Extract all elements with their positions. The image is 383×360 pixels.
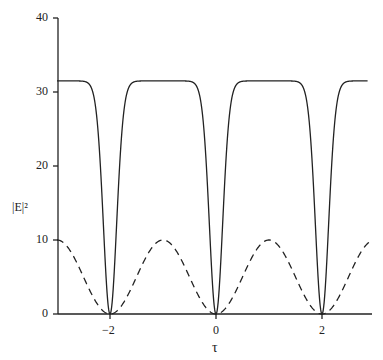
y-tick-label: 0 <box>42 306 48 321</box>
x-tick-label: 2 <box>319 323 325 338</box>
x-axis-label: τ <box>212 340 218 356</box>
y-tick-label: 10 <box>36 232 48 247</box>
y-axis-label: |E|² <box>12 200 28 215</box>
y-tick-label: 30 <box>36 84 48 99</box>
y-tick-label: 40 <box>36 10 48 25</box>
x-tick-label: 0 <box>213 323 219 338</box>
chart-canvas <box>0 0 383 360</box>
x-tick-label: −2 <box>102 323 115 338</box>
y-tick-label: 20 <box>36 158 48 173</box>
solid-curve <box>57 81 368 314</box>
